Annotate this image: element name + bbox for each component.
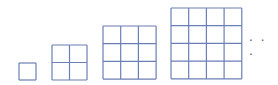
grid-sequence-diagram — [0, 0, 278, 85]
grid-1x1 — [19, 63, 36, 80]
grid-3x3 — [103, 26, 156, 79]
grid-2x2 — [52, 45, 87, 80]
ellipsis: · · · — [249, 34, 278, 62]
grid-4x4 — [171, 8, 242, 79]
